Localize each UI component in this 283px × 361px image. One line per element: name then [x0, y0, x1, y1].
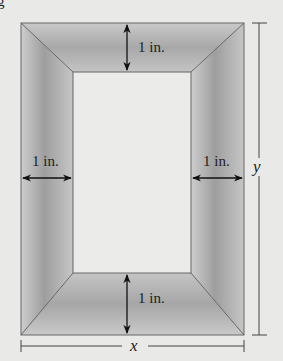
height-dimension-line: [252, 23, 267, 335]
frame-inner-opening: [73, 72, 191, 273]
right-width-label: 1 in.: [203, 153, 230, 169]
picture-frame-diagram: g 1 in. 1 in. 1 in. 1 in. y x: [0, 0, 283, 361]
height-variable-label: y: [251, 157, 261, 176]
partial-heading-glyph: g: [0, 0, 5, 9]
left-width-label: 1 in.: [32, 153, 59, 169]
top-width-label: 1 in.: [138, 39, 165, 55]
bottom-width-label: 1 in.: [138, 290, 165, 306]
width-variable-label: x: [129, 336, 138, 355]
